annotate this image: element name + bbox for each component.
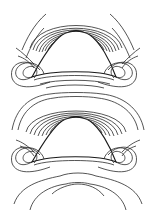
- lower-bottom-contours: [14, 161, 142, 211]
- upper-body-shape: [32, 31, 116, 77]
- contour-figure: [0, 0, 156, 224]
- contour-plot: [0, 0, 156, 224]
- lower-unit: [11, 93, 144, 211]
- lower-body-shape: [32, 117, 116, 162]
- upper-unit: [11, 14, 140, 88]
- upper-lower-contours: [34, 76, 114, 89]
